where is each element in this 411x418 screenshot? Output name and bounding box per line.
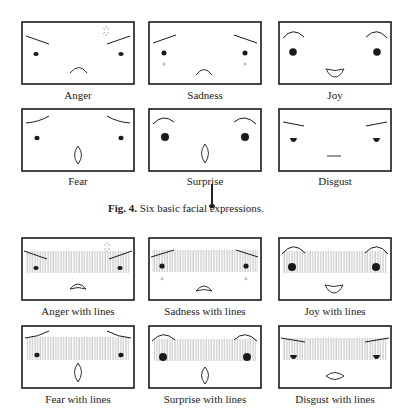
label-joy-with-lines: Joy with lines [278, 305, 392, 317]
face-surprise-with-lines [148, 325, 262, 389]
face-anger [21, 21, 135, 85]
face-joy [278, 21, 392, 85]
label-disgust: Disgust [278, 175, 392, 187]
label-surprise: Surprise [148, 175, 262, 187]
face-sadness-with-lines [148, 237, 262, 301]
label-sadness: Sadness [148, 89, 262, 101]
label-sadness-with-lines: Sadness with lines [148, 305, 262, 317]
face-joy-with-lines [278, 237, 392, 301]
label-anger-with-lines: Anger with lines [21, 305, 135, 317]
face-surprise [148, 108, 262, 172]
label-fear-with-lines: Fear with lines [21, 393, 135, 405]
figure-caption: Fig. 4. Six basic facial expressions. [108, 202, 264, 214]
anger-vein-icon [103, 26, 109, 36]
figure-number: Fig. 4. [108, 202, 137, 214]
figure-caption-text: Six basic facial expressions. [137, 202, 264, 214]
face-disgust [278, 108, 392, 172]
label-disgust-with-lines: Disgust with lines [278, 393, 392, 405]
face-sadness [148, 21, 262, 85]
label-surprise-with-lines: Surprise with lines [148, 393, 262, 405]
face-fear [21, 108, 135, 172]
face-disgust-with-lines [278, 325, 392, 389]
anger-vein-icon [104, 242, 110, 252]
face-fear-with-lines [21, 325, 135, 389]
label-joy: Joy [278, 89, 392, 101]
face-anger-with-lines [21, 237, 135, 301]
label-fear: Fear [21, 175, 135, 187]
label-anger: Anger [21, 89, 135, 101]
